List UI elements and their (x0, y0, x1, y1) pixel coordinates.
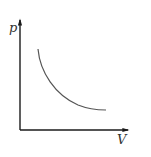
x-axis-label: V (117, 133, 126, 146)
diagram-canvas (0, 0, 151, 157)
pv-curve (38, 49, 106, 110)
y-axis-label: p (9, 21, 17, 34)
pv-diagram: p V (0, 0, 151, 157)
